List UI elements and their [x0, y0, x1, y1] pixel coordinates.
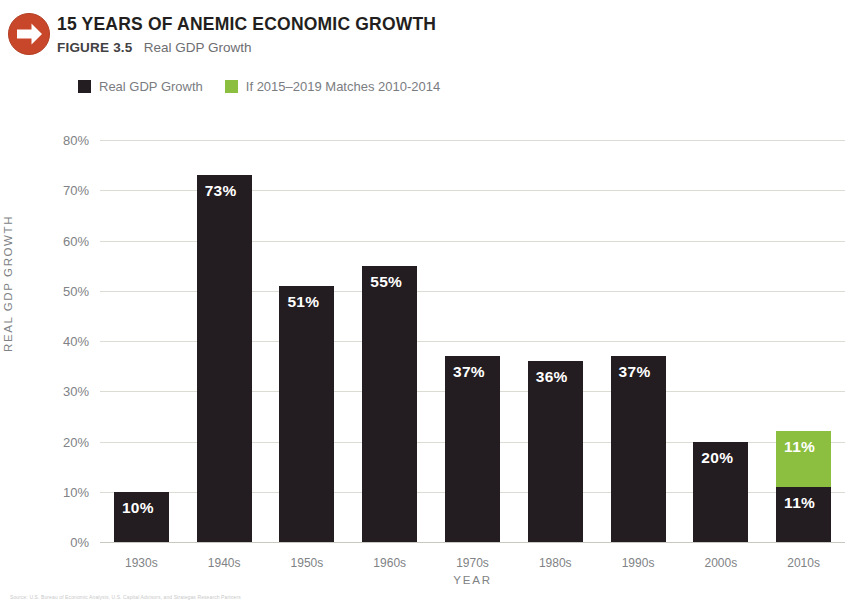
- legend-label: If 2015–2019 Matches 2010-2014: [246, 79, 440, 94]
- bar-segment-actual[interactable]: 11%: [776, 487, 831, 542]
- legend-item-real-gdp-growth: Real GDP Growth: [78, 79, 203, 94]
- bar-group[interactable]: 55%1960s: [362, 140, 417, 542]
- y-axis-tick-label: 0%: [27, 535, 89, 550]
- source-caption: Source: U.S. Bureau of Economic Analysis…: [10, 594, 510, 600]
- bar-group[interactable]: 37%1990s: [611, 140, 666, 542]
- y-axis-tick-label: 10%: [27, 484, 89, 499]
- bar-chart: REAL GDP GROWTH 80%70%60%50%40%30%20%10%…: [0, 100, 859, 570]
- y-axis-tick-label: 60%: [27, 233, 89, 248]
- y-axis-title: REAL GDP GROWTH: [2, 215, 14, 352]
- figure-subtitle: Real GDP Growth: [144, 40, 252, 55]
- bar-segment-actual[interactable]: 20%: [693, 442, 748, 543]
- bar-group[interactable]: 37%1970s: [445, 140, 500, 542]
- y-axis-tick-label: 80%: [27, 133, 89, 148]
- x-axis-tick-label: 1970s: [456, 556, 489, 570]
- figure-page: 15 YEARS OF ANEMIC ECONOMIC GROWTH FIGUR…: [0, 0, 859, 605]
- y-axis-tick-label: 40%: [27, 334, 89, 349]
- bar-group[interactable]: 10%1930s: [114, 140, 169, 542]
- x-axis-tick-label: 1930s: [125, 556, 158, 570]
- x-axis-tick-label: 1940s: [208, 556, 241, 570]
- x-axis-title: YEAR: [100, 574, 845, 586]
- bar-value-label: 51%: [279, 286, 319, 311]
- bar-group[interactable]: 36%1980s: [528, 140, 583, 542]
- bar-segment-actual[interactable]: 36%: [528, 361, 583, 542]
- bar-group[interactable]: 20%2000s: [693, 140, 748, 542]
- bar-value-label: 11%: [776, 487, 815, 512]
- bar-value-label: 73%: [197, 175, 237, 200]
- bar-value-label: 37%: [611, 356, 651, 381]
- bar-segment-actual[interactable]: 51%: [279, 286, 334, 542]
- y-axis-tick-label: 30%: [27, 384, 89, 399]
- figure-header: 15 YEARS OF ANEMIC ECONOMIC GROWTH FIGUR…: [0, 8, 859, 66]
- x-axis-tick-label: 2000s: [704, 556, 737, 570]
- figure-caption: FIGURE 3.5 Real GDP Growth: [57, 40, 252, 55]
- bar-segment-actual[interactable]: 55%: [362, 266, 417, 542]
- x-axis-tick-label: 1990s: [622, 556, 655, 570]
- bar-segment-actual[interactable]: 73%: [197, 175, 252, 542]
- bar-value-label: 37%: [445, 356, 485, 381]
- plot-area: 80%70%60%50%40%30%20%10%0%10%1930s73%194…: [100, 140, 845, 542]
- legend-item-projection: If 2015–2019 Matches 2010-2014: [225, 79, 440, 94]
- bar-group[interactable]: 11%11%2010s: [776, 140, 831, 542]
- bar-value-label: 36%: [528, 361, 568, 386]
- bar-group[interactable]: 51%1950s: [279, 140, 334, 542]
- bar-segment-actual[interactable]: 37%: [445, 356, 500, 542]
- bar-value-label: 11%: [776, 431, 815, 456]
- bar-segment-actual[interactable]: 37%: [611, 356, 666, 542]
- bar-value-label: 10%: [114, 492, 154, 517]
- y-axis-tick-label: 50%: [27, 283, 89, 298]
- x-axis-tick-label: 1980s: [539, 556, 572, 570]
- x-axis-tick-label: 2010s: [787, 556, 820, 570]
- gridline: [100, 542, 845, 543]
- x-axis-tick-label: 1950s: [291, 556, 324, 570]
- bar-segment-actual[interactable]: 10%: [114, 492, 169, 542]
- chart-legend: Real GDP Growth If 2015–2019 Matches 201…: [78, 79, 440, 94]
- legend-label: Real GDP Growth: [99, 79, 203, 94]
- x-axis-tick-label: 1960s: [373, 556, 406, 570]
- bar-segment-projected[interactable]: 11%: [776, 431, 831, 486]
- y-axis-tick-label: 20%: [27, 434, 89, 449]
- dark-square-swatch: [78, 80, 91, 93]
- y-axis-tick-label: 70%: [27, 183, 89, 198]
- right-arrow-circle-icon: [8, 13, 50, 55]
- bar-group[interactable]: 73%1940s: [197, 140, 252, 542]
- figure-number: FIGURE 3.5: [57, 40, 133, 55]
- green-square-swatch: [225, 80, 238, 93]
- bar-value-label: 20%: [693, 442, 733, 467]
- bar-value-label: 55%: [362, 266, 402, 291]
- page-title: 15 YEARS OF ANEMIC ECONOMIC GROWTH: [57, 14, 436, 35]
